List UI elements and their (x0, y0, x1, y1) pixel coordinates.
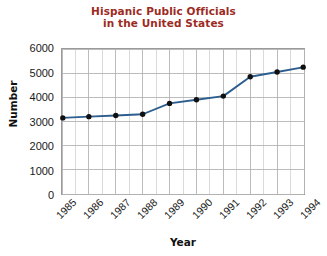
data-point-marker (113, 113, 118, 118)
x-tick-label: 1994 (290, 196, 323, 229)
y-tick-label: 1000 (30, 165, 54, 177)
data-point-marker (221, 93, 226, 98)
data-point-marker (301, 64, 306, 69)
x-tick-label: 1989 (154, 196, 187, 229)
x-tick-label: 1988 (127, 196, 160, 229)
plot-area (61, 48, 305, 195)
data-point-marker (60, 115, 65, 120)
y-tick-label: 6000 (30, 42, 54, 54)
data-point-marker (248, 74, 253, 79)
x-tick-label: 1986 (73, 196, 106, 229)
line-chart: Hispanic Public Officials in the United … (0, 0, 327, 256)
data-point-marker (86, 114, 91, 119)
y-tick-label: 0 (48, 189, 54, 201)
chart-title: Hispanic Public Officials in the United … (0, 5, 327, 29)
x-tick-label: 1992 (236, 196, 269, 229)
data-point-marker (194, 97, 199, 102)
y-tick-label: 3000 (30, 116, 54, 128)
data-point-marker (274, 69, 279, 74)
x-tick-label: 1990 (182, 196, 215, 229)
chart-title-line-2: in the United States (0, 17, 327, 29)
x-axis-title: Year (61, 236, 305, 248)
y-axis-tick-labels: 0100020003000400050006000 (0, 48, 58, 195)
x-tick-label: 1987 (100, 196, 133, 229)
x-tick-label: 1991 (209, 196, 242, 229)
data-point-marker (140, 112, 145, 117)
data-series (62, 49, 304, 194)
data-point-marker (167, 101, 172, 106)
x-axis-tick-labels: 1985198619871988198919901991199219931994 (61, 196, 305, 236)
x-tick-label: 1993 (263, 196, 296, 229)
y-tick-label: 2000 (30, 140, 54, 152)
y-tick-label: 4000 (30, 91, 54, 103)
y-tick-label: 5000 (30, 67, 54, 79)
series-line (62, 67, 304, 118)
chart-title-line-1: Hispanic Public Officials (0, 5, 327, 17)
